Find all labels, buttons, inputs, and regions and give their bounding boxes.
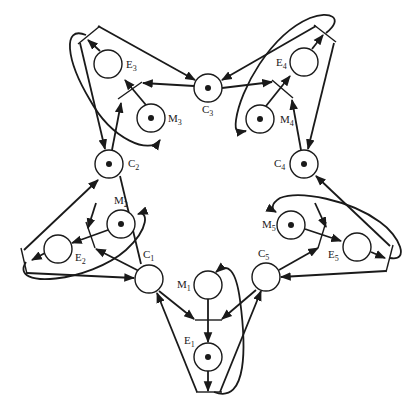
label-M5: M5 bbox=[262, 218, 276, 233]
place-C3 bbox=[194, 74, 222, 102]
place-C5 bbox=[252, 263, 280, 291]
label-E5: E5 bbox=[328, 248, 339, 263]
token-icon bbox=[106, 161, 112, 167]
label-C5: C5 bbox=[258, 247, 269, 262]
diagram-svg: C1 C2 C3 C4 C5 E1 E2 E3 E4 E5 M1 M2 M3 M… bbox=[0, 0, 419, 418]
label-M3: M3 bbox=[168, 112, 182, 127]
label-M4: M4 bbox=[280, 113, 294, 128]
petri-net-diagram: C1 C2 C3 C4 C5 E1 E2 E3 E4 E5 M1 M2 M3 M… bbox=[0, 0, 419, 418]
place-C4 bbox=[290, 150, 318, 178]
place-E4 bbox=[290, 48, 318, 76]
place-E3 bbox=[94, 50, 122, 78]
token-icon bbox=[205, 354, 211, 360]
label-C2: C2 bbox=[128, 157, 139, 172]
place-C2 bbox=[95, 150, 123, 178]
label-C1: C1 bbox=[143, 248, 154, 263]
place-M2 bbox=[107, 210, 135, 238]
place-M3 bbox=[137, 104, 165, 132]
label-E2: E2 bbox=[75, 251, 86, 266]
label-C4: C4 bbox=[274, 157, 285, 172]
place-E2 bbox=[44, 235, 72, 263]
place-E1 bbox=[194, 343, 222, 371]
place-M5 bbox=[277, 211, 305, 239]
label-C3: C3 bbox=[202, 103, 213, 118]
place-E5 bbox=[343, 233, 371, 261]
token-icon bbox=[301, 161, 307, 167]
label-E1: E1 bbox=[184, 334, 195, 349]
token-icon bbox=[288, 222, 294, 228]
label-E3: E3 bbox=[126, 58, 137, 73]
place-M4 bbox=[246, 105, 274, 133]
token-icon bbox=[118, 221, 124, 227]
place-M1 bbox=[194, 271, 222, 299]
token-icon bbox=[205, 85, 211, 91]
place-C1 bbox=[135, 265, 163, 293]
label-E4: E4 bbox=[276, 56, 287, 71]
token-icon bbox=[257, 116, 263, 122]
label-M1: M1 bbox=[177, 278, 191, 293]
arcs bbox=[21, 15, 401, 394]
token-icon bbox=[148, 115, 154, 121]
